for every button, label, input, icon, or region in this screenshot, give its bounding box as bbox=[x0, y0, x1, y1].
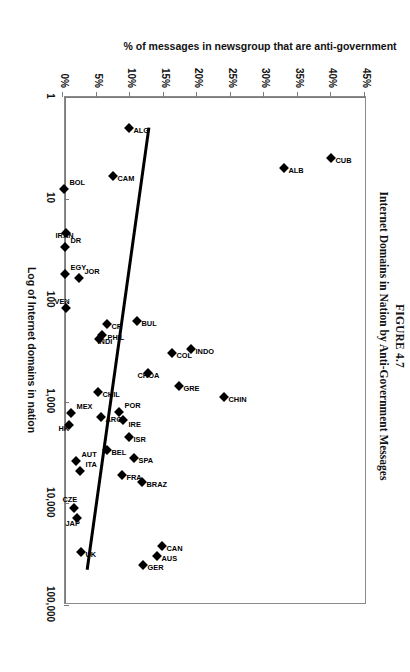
x-tick-label: 100 bbox=[45, 291, 56, 308]
data-point-label: FRA bbox=[127, 473, 142, 482]
data-point-label: HK bbox=[59, 424, 70, 433]
y-tick bbox=[129, 92, 130, 97]
data-point-label: BOL bbox=[70, 178, 86, 187]
data-point-label: INDO bbox=[195, 347, 213, 356]
y-tick-label: 15% bbox=[159, 56, 170, 88]
x-tick bbox=[64, 402, 69, 403]
y-tick-label: 30% bbox=[260, 56, 271, 88]
y-tick bbox=[330, 92, 331, 97]
data-point-label: GRE bbox=[184, 384, 200, 393]
y-tick-label: 45% bbox=[361, 56, 372, 88]
data-point-label: CUB bbox=[336, 156, 352, 165]
x-tick bbox=[64, 199, 69, 200]
trendline bbox=[63, 97, 365, 605]
data-point-label: POR bbox=[125, 401, 141, 410]
figure-page: FIGURE 4.7 Internet Domains in Nation by… bbox=[0, 0, 410, 672]
x-axis-title: Log of Internet domains in nation bbox=[26, 96, 38, 604]
data-point-label: SPA bbox=[139, 456, 154, 465]
data-point-label: IRE bbox=[129, 420, 141, 429]
data-point-label: UK bbox=[86, 550, 97, 559]
data-point-label: COL bbox=[177, 351, 193, 360]
data-point-label: GER bbox=[147, 563, 163, 572]
data-point-label: AUS bbox=[161, 554, 177, 563]
x-tick bbox=[64, 300, 69, 301]
y-tick bbox=[163, 92, 164, 97]
data-point-label: ALG bbox=[133, 126, 149, 135]
data-point-label: ARG bbox=[105, 415, 121, 424]
x-tick-label: 100,000 bbox=[45, 586, 56, 622]
data-point-label: CHIL bbox=[102, 390, 119, 399]
y-tick bbox=[297, 92, 298, 97]
x-tick-label: 10 bbox=[45, 192, 56, 203]
y-tick bbox=[364, 92, 365, 97]
data-point-label: JAP bbox=[66, 519, 80, 528]
data-point-label: CHIN bbox=[229, 395, 247, 404]
data-point-label: BRAZ bbox=[147, 480, 168, 489]
x-tick bbox=[64, 605, 69, 606]
y-tick-label: 0% bbox=[59, 56, 70, 88]
data-point-label: BUL bbox=[141, 319, 156, 328]
x-tick bbox=[64, 503, 69, 504]
data-point-label: ITA bbox=[86, 460, 97, 469]
data-point-label: DR bbox=[71, 236, 82, 245]
x-tick-label: 1 bbox=[45, 93, 56, 99]
data-point-label: MEX bbox=[77, 402, 93, 411]
y-tick bbox=[62, 92, 63, 97]
y-tick bbox=[230, 92, 231, 97]
y-axis-title: % of messages in newsgroup that are anti… bbox=[124, 40, 384, 53]
data-point-label: BEL bbox=[112, 448, 127, 457]
data-point-label: CAM bbox=[117, 174, 134, 183]
data-point-label: AUT bbox=[82, 450, 97, 459]
data-point-label: INDI bbox=[98, 337, 113, 346]
y-tick-label: 5% bbox=[92, 56, 103, 88]
figure-title: Internet Domains in Nation by Anti-Gover… bbox=[378, 0, 390, 672]
y-tick bbox=[96, 92, 97, 97]
x-tick bbox=[64, 97, 69, 98]
data-point-label: ISR bbox=[133, 435, 145, 444]
x-tick-label: 1,000 bbox=[45, 388, 56, 413]
rotated-figure: FIGURE 4.7 Internet Domains in Nation by… bbox=[0, 0, 410, 672]
y-tick bbox=[196, 92, 197, 97]
figure-number: FIGURE 4.7 bbox=[394, 0, 406, 672]
y-tick bbox=[263, 92, 264, 97]
y-tick-label: 35% bbox=[293, 56, 304, 88]
data-point-label: CAN bbox=[167, 544, 183, 553]
y-tick-label: 20% bbox=[193, 56, 204, 88]
x-tick-label: 10,000 bbox=[45, 487, 56, 518]
y-tick-label: 10% bbox=[126, 56, 137, 88]
data-point-label: VEN bbox=[54, 297, 69, 306]
data-point-label: CR bbox=[112, 322, 123, 331]
data-point-label: ALB bbox=[289, 166, 304, 175]
y-tick-label: 25% bbox=[226, 56, 237, 88]
data-point-label: CZE bbox=[62, 495, 77, 504]
y-tick-label: 40% bbox=[327, 56, 338, 88]
data-point-label: JOR bbox=[85, 267, 100, 276]
data-point-label: CROA bbox=[137, 371, 159, 380]
scatter-plot-area: CUBALBCHININDOCOLGREBULALGCAMCRPHILINDIC… bbox=[64, 96, 366, 604]
